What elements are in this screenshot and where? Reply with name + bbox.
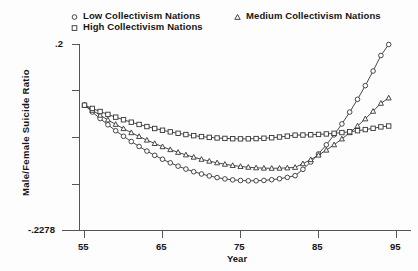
data-point-marker [176, 164, 181, 169]
data-point-marker [145, 149, 150, 154]
data-point-marker [222, 162, 227, 167]
data-point-marker [324, 147, 329, 152]
data-point-marker [144, 137, 149, 142]
data-point-marker [332, 142, 337, 147]
x-axis-title: Year [227, 253, 247, 264]
data-point-marker [285, 175, 290, 180]
data-point-marker [386, 42, 391, 47]
data-point-marker [137, 134, 142, 139]
data-point-marker [355, 129, 359, 133]
data-point-marker [246, 137, 250, 141]
data-point-marker [238, 178, 243, 183]
data-point-marker [121, 134, 126, 139]
data-point-marker [300, 161, 305, 166]
data-point-marker [254, 136, 258, 140]
data-point-marker [160, 128, 164, 132]
x-axis-ticks [85, 231, 397, 239]
data-point-marker [277, 165, 282, 170]
data-point-marker [207, 174, 212, 179]
data-point-marker [324, 143, 329, 148]
data-point-marker [168, 161, 173, 166]
data-point-marker [262, 136, 266, 140]
data-point-marker [90, 106, 94, 110]
data-point-marker [176, 150, 181, 155]
data-point-marker [269, 177, 274, 182]
data-point-marker [269, 166, 274, 171]
data-point-marker [129, 130, 134, 135]
data-point-marker [223, 177, 228, 182]
data-point-marker [371, 126, 375, 130]
data-point-marker [347, 110, 352, 115]
data-point-marker [238, 164, 243, 169]
data-point-marker [238, 137, 242, 141]
y-tick-label-bottom: -.2278 [28, 224, 55, 235]
data-point-marker [339, 136, 344, 141]
data-point-marker [324, 132, 328, 136]
legend-label-medium: Medium Collectivism Nations [246, 11, 381, 21]
data-point-marker [98, 109, 102, 113]
data-point-marker [378, 101, 383, 106]
data-point-marker [254, 165, 259, 170]
data-point-marker [183, 152, 188, 157]
data-point-marker [160, 144, 165, 149]
y-tick-label-top: .2 [55, 38, 63, 49]
data-point-marker [293, 165, 298, 170]
data-point-marker [168, 147, 173, 152]
square-marker-icon [70, 23, 79, 32]
data-point-marker [184, 132, 188, 136]
data-point-marker [199, 157, 204, 162]
data-point-marker [363, 127, 367, 131]
data-point-marker [191, 169, 196, 174]
data-point-marker [285, 165, 290, 170]
data-point-marker [153, 126, 157, 130]
data-point-marker [230, 178, 235, 183]
data-point-marker [340, 122, 345, 127]
data-point-marker [82, 103, 86, 107]
data-point-marker [223, 136, 227, 140]
data-point-marker [316, 132, 320, 136]
data-point-marker [113, 122, 118, 127]
data-point-marker [301, 133, 305, 137]
data-point-marker [285, 134, 289, 138]
data-point-marker [387, 124, 391, 128]
data-point-marker [152, 141, 157, 146]
data-point-marker [207, 158, 212, 163]
data-point-marker [293, 133, 297, 137]
data-point-marker [246, 179, 251, 184]
data-point-marker [215, 160, 220, 165]
data-point-marker [129, 120, 133, 124]
data-point-marker [332, 131, 336, 135]
data-point-marker [309, 133, 313, 137]
x-tick-label-85: 85 [312, 241, 323, 252]
data-point-marker [215, 136, 219, 140]
data-point-marker [246, 165, 251, 170]
legend-item-low-collectivism: Low Collectivism Nations [70, 11, 200, 21]
data-point-marker [106, 112, 110, 116]
chart-figure: Low Collectivism Nations High Collectivi… [0, 0, 418, 271]
data-point-marker [308, 157, 313, 162]
data-point-marker [262, 178, 267, 183]
data-point-marker [254, 178, 259, 183]
series-triangle [82, 95, 391, 170]
data-point-marker [199, 172, 204, 177]
legend-label-low: Low Collectivism Nations [83, 11, 200, 21]
data-point-marker [106, 123, 111, 128]
data-series-group [82, 42, 391, 183]
legend-label-high: High Collectivism Nations [83, 22, 203, 32]
legend-item-high-collectivism: High Collectivism Nations [70, 22, 203, 32]
data-point-marker [160, 157, 165, 162]
data-point-marker [137, 122, 141, 126]
data-point-marker [277, 135, 281, 139]
data-point-marker [184, 167, 189, 172]
data-point-marker [215, 175, 220, 180]
data-point-marker [301, 167, 306, 172]
data-point-marker [199, 134, 203, 138]
x-tick-label-55: 55 [78, 241, 89, 252]
data-point-marker [121, 126, 126, 131]
series-line [85, 45, 389, 181]
x-tick-label-65: 65 [156, 241, 167, 252]
data-point-marker [129, 139, 134, 144]
data-point-marker [340, 130, 344, 134]
data-point-marker [121, 118, 125, 122]
series-circle [82, 42, 391, 183]
